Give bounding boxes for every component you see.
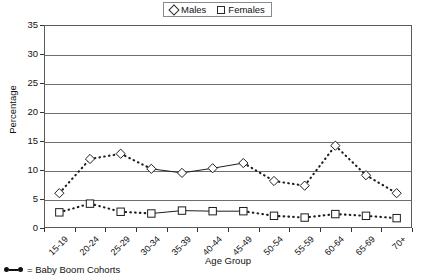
legend-label-males: Males (181, 4, 206, 15)
y-tick-mark (40, 141, 44, 142)
y-tick-label: 25 (10, 77, 38, 88)
legend-item-males: Males (170, 4, 206, 15)
x-tick-mark (351, 228, 352, 232)
y-tick-label: 30 (10, 48, 38, 59)
y-tick-mark (40, 112, 44, 113)
y-tick-mark (40, 54, 44, 55)
square-outline-icon (217, 6, 225, 14)
footnote-text: = Baby Boom Cohorts (27, 264, 120, 275)
chart-legend: Males Females (163, 2, 272, 17)
legend-item-females: Females (217, 4, 264, 15)
y-tick-label: 35 (10, 19, 38, 30)
diamond-outline-icon (168, 4, 179, 15)
x-tick-mark (105, 228, 106, 232)
gridline (45, 171, 411, 172)
y-tick-label: 15 (10, 135, 38, 146)
x-tick-mark (136, 228, 137, 232)
plot-area (44, 25, 412, 228)
chart-container: Males Females Percentage Age Group = Bab… (0, 0, 424, 279)
y-tick-label: 20 (10, 106, 38, 117)
x-tick-mark (289, 228, 290, 232)
gridline (45, 113, 411, 114)
y-tick-mark (40, 199, 44, 200)
footnote: = Baby Boom Cohorts (4, 264, 120, 275)
y-tick-mark (40, 83, 44, 84)
x-tick-mark (167, 228, 168, 232)
gridline (45, 84, 411, 85)
y-tick-label: 0 (10, 222, 38, 233)
x-tick-mark (320, 228, 321, 232)
x-tick-mark (381, 228, 382, 232)
dot-line-dot-icon (4, 267, 23, 272)
x-tick-mark (259, 228, 260, 232)
x-tick-mark (228, 228, 229, 232)
y-tick-mark (40, 170, 44, 171)
x-tick-mark (75, 228, 76, 232)
legend-label-females: Females (228, 4, 264, 15)
x-tick-mark (197, 228, 198, 232)
gridline (45, 200, 411, 201)
y-tick-mark (40, 25, 44, 26)
gridline (45, 55, 411, 56)
x-tick-mark (44, 228, 45, 232)
y-tick-label: 10 (10, 164, 38, 175)
y-tick-label: 5 (10, 193, 38, 204)
x-tick-mark (412, 228, 413, 232)
gridline (45, 142, 411, 143)
